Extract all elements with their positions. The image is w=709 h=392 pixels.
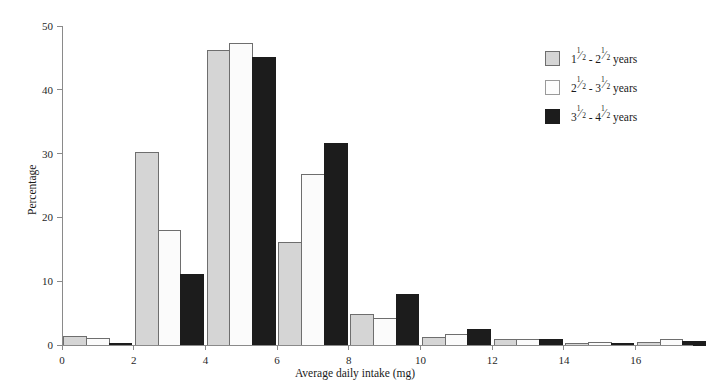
y-tick-label-30: 30 xyxy=(42,148,54,160)
legend-label-2: 21⁄2 - 31⁄2 years xyxy=(571,80,637,95)
legend-swatch-2 xyxy=(545,80,560,95)
x-axis-title: Average daily intake (mg) xyxy=(295,367,415,380)
fraction-glyph: 1⁄2 xyxy=(601,109,610,121)
bar-2-4-series3 xyxy=(181,275,204,345)
bar-0-2-series2 xyxy=(87,339,110,345)
bar-2-4-series1 xyxy=(136,152,159,345)
bar-6-8-series3 xyxy=(324,143,347,345)
fraction-glyph: 1⁄2 xyxy=(577,51,586,63)
y-tick-label-0: 0 xyxy=(48,339,54,351)
y-tick-label-20: 20 xyxy=(42,211,54,223)
y-tick-label-10: 10 xyxy=(42,275,54,287)
bar-16-18-series2 xyxy=(660,339,683,345)
fraction-glyph: 1⁄2 xyxy=(577,109,586,121)
bar-8-10-series1 xyxy=(351,314,374,345)
bar-0-2-series1 xyxy=(64,337,87,345)
x-tick-label-6: 6 xyxy=(274,354,280,366)
y-tick-label-40: 40 xyxy=(42,84,54,96)
x-tick-label-4: 4 xyxy=(203,354,209,366)
fraction-glyph: 1⁄2 xyxy=(577,80,586,92)
y-axis-title: Percentage xyxy=(26,165,38,215)
x-tick-label-8: 8 xyxy=(346,354,352,366)
x-tick-label-10: 10 xyxy=(415,354,427,366)
bar-2-4-series2 xyxy=(158,230,181,345)
bar-10-12-series1 xyxy=(422,337,445,345)
bar-4-6-series3 xyxy=(253,58,276,345)
y-tick-label-50: 50 xyxy=(42,20,54,32)
bar-8-10-series2 xyxy=(373,319,396,345)
legend-item-3.5-4.5-years: 31⁄2 - 41⁄2 years xyxy=(545,102,705,131)
x-tick-label-12: 12 xyxy=(487,354,498,366)
bar-4-6-series2 xyxy=(230,43,253,345)
bar-chart: 010203040500246810121416 Average daily i… xyxy=(0,0,709,392)
bar-12-14-series2 xyxy=(517,339,540,345)
bar-10-12-series2 xyxy=(445,334,468,345)
legend-item-1.5-2.5-years: 11⁄2 - 21⁄2 years xyxy=(545,44,705,73)
x-tick-label-0: 0 xyxy=(59,354,65,366)
x-tick-label-16: 16 xyxy=(630,354,642,366)
bar-4-6-series1 xyxy=(207,50,230,345)
x-tick-label-14: 14 xyxy=(558,354,570,366)
chart-legend: 11⁄2 - 21⁄2 years21⁄2 - 31⁄2 years31⁄2 -… xyxy=(545,44,705,131)
legend-swatch-3 xyxy=(545,109,560,124)
x-tick-label-2: 2 xyxy=(131,354,137,366)
bar-12-14-series3 xyxy=(539,339,562,345)
legend-swatch-1 xyxy=(545,51,560,66)
fraction-glyph: 1⁄2 xyxy=(601,80,610,92)
legend-label-3: 31⁄2 - 41⁄2 years xyxy=(571,109,637,124)
bar-8-10-series3 xyxy=(396,295,419,345)
bar-6-8-series2 xyxy=(302,174,325,345)
fraction-glyph: 1⁄2 xyxy=(601,51,610,63)
bar-6-8-series1 xyxy=(279,243,302,345)
bar-16-18-series3 xyxy=(683,341,706,345)
bar-10-12-series3 xyxy=(468,329,491,345)
legend-item-2.5-3.5-years: 21⁄2 - 31⁄2 years xyxy=(545,73,705,102)
bar-12-14-series1 xyxy=(494,340,517,345)
legend-label-1: 11⁄2 - 21⁄2 years xyxy=(571,51,637,66)
